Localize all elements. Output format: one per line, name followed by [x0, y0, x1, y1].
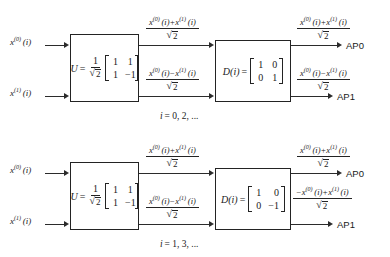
out-arrowhead-1	[328, 93, 333, 99]
mid-line-0	[139, 45, 210, 46]
out-expression-0-denominator: √2	[317, 157, 329, 169]
output-label-ap0: AP0	[346, 168, 364, 179]
mid-line-1	[139, 224, 210, 225]
matrix-cell: 0	[256, 72, 263, 83]
input-arrowhead-0	[64, 170, 69, 176]
out-arrowhead-0	[337, 170, 342, 176]
matrix-cell: 1	[125, 56, 133, 67]
matrix-bracket-right	[135, 55, 139, 81]
mid-expression-0-denominator: √2	[166, 29, 178, 41]
input-line-1	[45, 224, 65, 225]
mid-line-1	[139, 96, 210, 97]
matrix-cell: 0	[268, 187, 279, 198]
matrix-cell: 1	[111, 184, 118, 195]
mid-expression-1: x(0) (i)−x(1) (i) √2	[146, 195, 199, 221]
out-arrowhead-1	[328, 221, 333, 227]
matrix-cell: −1	[125, 69, 133, 80]
mid-expression-0-numerator: x(0) (i)+x(1) (i)	[146, 144, 199, 157]
output-label-ap1: AP1	[337, 91, 355, 102]
mid-line-0	[139, 173, 210, 174]
matrix-cell: 1	[270, 72, 277, 83]
out-expression-0-numerator: x(0) (i)+x(1) (i)	[297, 16, 350, 29]
matrix-cell: 1	[256, 59, 263, 70]
mid-expression-1: x(0) (i)−x(1) (i) √2	[146, 67, 199, 93]
matrix-cell: 1	[254, 187, 261, 198]
block-u-equation: U = 1 √2 1 1 1 −1	[71, 55, 139, 81]
output-label-ap1: AP1	[337, 219, 355, 230]
mid-arrowhead-1	[209, 221, 214, 227]
matrix-cell: 1	[111, 56, 118, 67]
block-d: D(i) = 1 0 0 1	[215, 40, 291, 102]
out-expression-1-numerator: x(0) (i)−x(1) (i)	[297, 67, 350, 80]
matrix-cell: 0	[270, 59, 277, 70]
block-u-scalar: 1 √2	[87, 56, 103, 79]
input-label-x1: x(1) (i)	[10, 215, 31, 226]
out-expression-1-denominator: √2	[317, 80, 329, 92]
input-line-0	[45, 45, 65, 46]
input-line-0	[45, 173, 65, 174]
block-u-scalar-numerator: 1	[91, 184, 100, 196]
block-u: U = 1 √2 1 1 1 −1	[70, 162, 139, 230]
out-expression-1: x(0) (i)−x(1) (i) √2	[297, 67, 350, 93]
block-d-matrix: 1 0 0 −1	[248, 186, 285, 212]
block-u-equals: =	[79, 191, 87, 202]
matrix-cell: 0	[254, 200, 261, 211]
input-label-x1: x(1) (i)	[10, 87, 31, 98]
out-line-0	[291, 173, 338, 174]
matrix-cell: −1	[268, 200, 279, 211]
block-d-equals: =	[241, 66, 249, 77]
mid-expression-1-denominator: √2	[166, 80, 178, 92]
block-u-scalar-numerator: 1	[91, 56, 100, 68]
mid-expression-0: x(0) (i)+x(1) (i) √2	[146, 16, 199, 42]
block-u-scalar-denominator: √2	[87, 196, 103, 208]
out-expression-0-denominator: √2	[317, 29, 329, 41]
out-arrowhead-0	[337, 42, 342, 48]
input-arrowhead-1	[64, 93, 69, 99]
input-arrowhead-1	[64, 221, 69, 227]
out-line-1	[291, 224, 329, 225]
input-label-x0: x(0) (i)	[10, 164, 31, 175]
block-u-scalar: 1 √2	[87, 184, 103, 207]
block-u-lhs: U	[71, 191, 78, 202]
block-u-equation: U = 1 √2 1 1 1 −1	[71, 183, 139, 209]
caption-bottom: i = 1, 3, ...	[160, 239, 198, 249]
mid-expression-1-numerator: x(0) (i)−x(1) (i)	[146, 195, 199, 208]
mid-expression-1-numerator: x(0) (i)−x(1) (i)	[146, 67, 199, 80]
out-line-0	[291, 45, 338, 46]
matrix-cell: 1	[125, 184, 133, 195]
block-d-equation: D(i) = 1 0 0 1	[223, 58, 283, 84]
block-u-lhs: U	[71, 63, 78, 74]
mid-expression-0: x(0) (i)+x(1) (i) √2	[146, 144, 199, 170]
matrix-cell: 1	[111, 69, 118, 80]
matrix-cell: −1	[125, 197, 133, 208]
block-u-equals: =	[79, 63, 87, 74]
mid-arrowhead-1	[209, 93, 214, 99]
block-d-lhs: D(i)	[221, 194, 238, 205]
block-diagram-figure: x(0) (i) x(1) (i) U = 1 √2	[0, 0, 390, 257]
block-d: D(i) = 1 0 0 −1	[215, 168, 291, 230]
mid-arrowhead-0	[209, 170, 214, 176]
block-d-equals: =	[239, 194, 247, 205]
out-line-1	[291, 96, 329, 97]
matrix-bracket-right	[281, 186, 285, 212]
mid-expression-0-numerator: x(0) (i)+x(1) (i)	[146, 16, 199, 29]
block-d-equation: D(i) = 1 0 0 −1	[221, 186, 285, 212]
mid-arrowhead-0	[209, 42, 214, 48]
out-expression-1-numerator: −x(0) (i)+x(1) (i)	[293, 186, 352, 199]
matrix-bracket-right	[135, 183, 139, 209]
caption-top: i = 0, 2, ...	[160, 111, 198, 121]
mid-expression-1-denominator: √2	[166, 208, 178, 220]
block-d-lhs: D(i)	[223, 66, 240, 77]
input-label-x0: x(0) (i)	[10, 36, 31, 47]
output-label-ap0: AP0	[346, 40, 364, 51]
block-u-scalar-denominator: √2	[87, 68, 103, 80]
out-expression-0: x(0) (i)+x(1) (i) √2	[297, 144, 350, 170]
input-arrowhead-0	[64, 42, 69, 48]
matrix-bracket-right	[279, 58, 283, 84]
out-expression-0-numerator: x(0) (i)+x(1) (i)	[297, 144, 350, 157]
out-expression-1: −x(0) (i)+x(1) (i) √2	[293, 186, 352, 212]
block-u: U = 1 √2 1 1 1 −1	[70, 34, 139, 102]
block-d-matrix: 1 0 0 1	[250, 58, 283, 84]
block-u-matrix: 1 1 1 −1	[105, 55, 138, 81]
input-line-1	[45, 96, 65, 97]
